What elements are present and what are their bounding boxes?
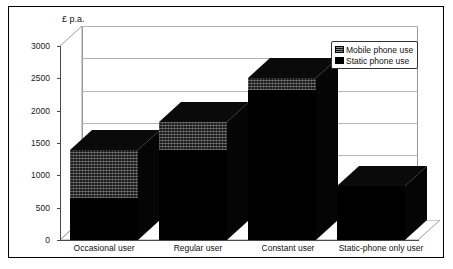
ytick-label-1500: 1500	[10, 139, 50, 148]
ytick-mark-3000	[57, 46, 61, 47]
bar-segment-static	[248, 90, 316, 240]
legend-label-mobile: Mobile phone use	[346, 45, 413, 55]
ytick-label-2500: 2500	[10, 74, 50, 83]
ytick-label-1000: 1000	[10, 171, 50, 180]
bar-segment-mobile	[248, 78, 316, 90]
ytick-label-3000: 3000	[10, 42, 50, 51]
bar-segment-static	[70, 198, 138, 240]
bar-segment-mobile	[159, 122, 227, 150]
ytick-mark-0	[57, 240, 61, 241]
gridline-3000	[82, 26, 418, 27]
ytick-label-2000: 2000	[10, 107, 50, 116]
bar-segment-static	[159, 150, 227, 240]
bar-group-static-phone-only-user	[337, 146, 427, 242]
xcat-label-static-phone-only-user: Static-phone only user	[322, 243, 440, 253]
mobile-swatch-icon	[335, 46, 344, 53]
bar-segment-mobile	[70, 150, 138, 198]
plot-area: 3000 2500 2000 1500 1000 500 0 £ p.a.	[0, 0, 453, 269]
legend-label-static: Static phone use	[346, 56, 409, 66]
legend-item-static-phone-use: Static phone use	[335, 55, 413, 66]
ytick-mark-2500	[57, 78, 61, 79]
chart-container: 3000 2500 2000 1500 1000 500 0 £ p.a.	[0, 0, 453, 269]
ytick-mark-1500	[57, 143, 61, 144]
bar-group-occasional-user	[70, 110, 160, 242]
y-axis-label: £ p.a.	[62, 14, 85, 24]
ytick-mark-500	[57, 208, 61, 209]
ytick-mark-2000	[57, 111, 61, 112]
bar-group-constant-user	[248, 38, 338, 242]
ytick-mark-1000	[57, 175, 61, 176]
chart-legend: Mobile phone use Static phone use	[331, 41, 418, 69]
ytick-label-500: 500	[10, 204, 50, 213]
legend-item-mobile-phone-use: Mobile phone use	[335, 44, 413, 55]
xcat-label-occasional-user: Occasional user	[54, 243, 154, 253]
bar-group-regular-user	[159, 82, 249, 242]
static-swatch-icon	[335, 57, 344, 64]
bar-segment-static	[337, 186, 405, 240]
ytick-label-0: 0	[10, 236, 50, 245]
xcat-label-regular-user: Regular user	[148, 243, 248, 253]
